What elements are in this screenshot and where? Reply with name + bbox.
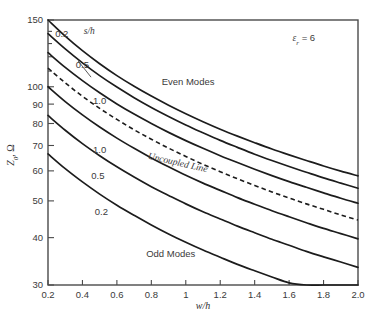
odd-mode-sh-label: 1.0 xyxy=(93,144,106,155)
even-mode-sh-label: 1.0 xyxy=(93,95,106,106)
odd-mode-sh-label: 0.5 xyxy=(91,170,104,181)
x-tick-label: 2.0 xyxy=(351,289,364,300)
y-tick-label: 40 xyxy=(32,232,43,243)
odd-mode-sh-label: 0.2 xyxy=(95,206,108,217)
y-tick-label: 90 xyxy=(32,99,43,110)
x-axis-title-group: w/h xyxy=(196,300,210,311)
x-axis-tick-labels: 0.20.40.60.811.21.41.61.82.0 xyxy=(41,289,364,300)
even-mode-sh-label: 0.5 xyxy=(76,59,89,70)
y-tick-label: 80 xyxy=(32,118,43,129)
y-tick-label: 70 xyxy=(32,140,43,151)
y-axis-title: Z0, Ω xyxy=(5,144,20,166)
y-tick-label: 60 xyxy=(32,165,43,176)
annotation-group: εr = 6Even ModesOdd ModesUncoupled Lines… xyxy=(84,26,315,259)
x-tick-label: 0.8 xyxy=(145,289,158,300)
y-tick-label: 50 xyxy=(32,195,43,206)
x-tick-label: 1.6 xyxy=(283,289,296,300)
y-tick-label: 150 xyxy=(27,14,43,25)
y-axis-ticks xyxy=(48,20,54,285)
y-axis-title-group: Z0, Ω xyxy=(5,144,20,166)
curve-label-group: 0.20.51.01.00.50.2 xyxy=(55,28,108,216)
even-modes-label: Even Modes xyxy=(162,76,215,87)
x-tick-label: 1.4 xyxy=(248,289,261,300)
y-tick-label: 100 xyxy=(27,81,43,92)
impedance-chart: 0.20.40.60.811.21.41.61.82.0 30405060708… xyxy=(0,0,375,316)
x-tick-label: 1.2 xyxy=(214,289,227,300)
y-tick-label: 30 xyxy=(32,279,43,290)
x-tick-label: 1.8 xyxy=(317,289,330,300)
svg-text:εr = 6: εr = 6 xyxy=(293,32,316,47)
y-axis-tick-labels: 30405060708090100150 xyxy=(27,14,43,290)
odd-modes-label: Odd Modes xyxy=(146,248,195,259)
x-tick-label: 1 xyxy=(183,289,188,300)
x-axis-ticks xyxy=(48,280,358,285)
x-tick-label: 0.6 xyxy=(110,289,123,300)
sh-parameter-label: s/h xyxy=(84,26,95,36)
x-axis-title: w/h xyxy=(196,300,210,311)
x-tick-label: 0.4 xyxy=(76,289,89,300)
even-mode-sh-label: 0.2 xyxy=(55,28,68,39)
x-tick-label: 0.2 xyxy=(41,289,54,300)
